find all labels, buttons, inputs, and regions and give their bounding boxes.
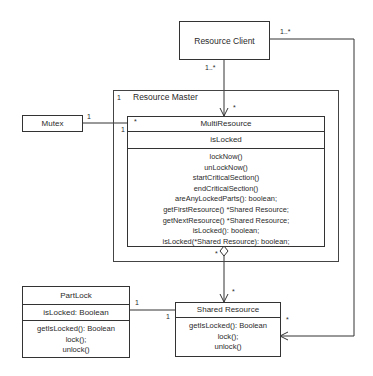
multiplicity-label: * (232, 288, 235, 296)
class-mutex: Mutex (22, 115, 83, 132)
multiplicity-label: 1 (117, 94, 121, 102)
attribute: isLocked: Boolean (23, 305, 129, 321)
multiplicity-label: 1 (166, 313, 170, 321)
operation: unlock() (176, 342, 280, 353)
operations-list: getIsLocked(): Boolean lock(); unlock() (176, 318, 280, 353)
operation: lock(); (176, 332, 280, 343)
class-name: Shared Resource (176, 303, 280, 318)
multiplicity-label: 1 (87, 113, 91, 121)
operation: unlock() (23, 345, 129, 356)
operation: isLocked(*Shared Resource): boolean; (128, 237, 324, 248)
package-name: Resource Master (133, 93, 198, 101)
multiplicity-label: 1..* (205, 64, 216, 72)
operation: lock(); (23, 335, 129, 346)
operation: areAnyLockedParts(): boolean; (128, 194, 324, 205)
class-name: Resource Client (194, 36, 254, 46)
operation: endCriticalSection() (128, 184, 324, 195)
class-multi-resource: MultiResource isLocked lockNow() unLockN… (127, 116, 325, 247)
attribute: isLocked (128, 132, 324, 149)
class-part-lock: PartLock isLocked: Boolean getIsLocked()… (22, 286, 130, 358)
multiplicity-label: 1..* (280, 28, 291, 36)
multiplicity-label: * (134, 118, 137, 126)
operation: isLocked(): boolean; (128, 226, 324, 237)
operation: getFirstResource() *Shared Resource; (128, 205, 324, 216)
class-resource-client: Resource Client (179, 21, 270, 60)
class-shared-resource: Shared Resource getIsLocked(): Boolean l… (175, 302, 281, 357)
multiplicity-label: 1 (121, 126, 125, 134)
operations-list: lockNow() unLockNow() startCriticalSecti… (128, 149, 324, 247)
operations-list: getIsLocked(): Boolean lock(); unlock() (23, 321, 129, 356)
operation: unLockNow() (128, 163, 324, 174)
multiplicity-label: 1 (135, 299, 139, 307)
operation: getIsLocked(): Boolean (23, 324, 129, 335)
operation: getNextResource() *Shared Resource; (128, 216, 324, 227)
operation: lockNow() (128, 152, 324, 163)
uml-diagram: Resource Client 1 Resource Master Mutex … (0, 0, 373, 376)
multiplicity-label: * (286, 316, 289, 324)
operation: startCriticalSection() (128, 173, 324, 184)
multiplicity-label: * (215, 250, 218, 258)
class-name: Mutex (42, 119, 64, 128)
class-name: MultiResource (128, 117, 324, 132)
class-name: PartLock (23, 287, 129, 305)
operation: getIsLocked(): Boolean (176, 321, 280, 332)
multiplicity-label: * (233, 104, 236, 112)
